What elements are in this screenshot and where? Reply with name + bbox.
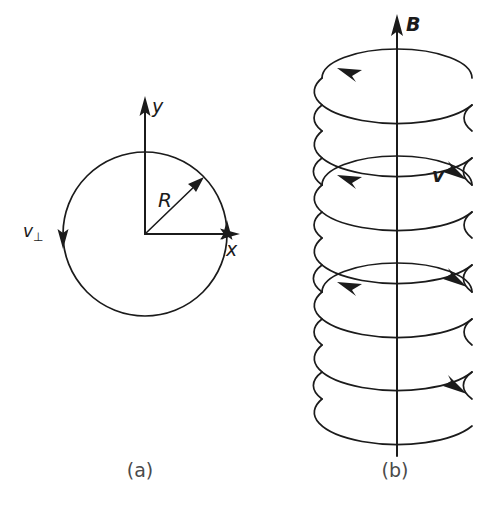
helix-left-connector-3 <box>314 212 322 238</box>
helix-left-connector-4 <box>313 265 322 292</box>
helix-arrowhead-left-1 <box>337 68 362 82</box>
helix-left-connector-2 <box>313 158 322 185</box>
velocity-perp-subscript: ⊥ <box>33 230 43 244</box>
helix-left-connector-5 <box>314 319 322 345</box>
panel-a-caption: (a) <box>127 459 153 481</box>
helix-arrowhead-left-3 <box>337 282 362 296</box>
panel-b-group: B <box>313 13 472 481</box>
helix-front-arc-0 <box>314 78 472 123</box>
panel-b-caption: (b) <box>382 459 409 481</box>
panel-a-group: y x R v ⊥ (a) <box>23 95 240 481</box>
magnetic-field-label: B <box>406 13 420 35</box>
velocity-label: v <box>432 164 445 186</box>
helix-left-arrowheads <box>337 68 362 296</box>
helix-arrowhead-left-2 <box>337 175 362 189</box>
velocity-perp-label-group: v ⊥ <box>23 221 43 244</box>
helix-front-arc-4 <box>314 292 472 337</box>
helix-left-connector-1 <box>314 105 322 131</box>
helix-front-arcs <box>314 78 472 444</box>
radius-label: R <box>158 188 172 212</box>
helix-front-arc-6 <box>314 399 472 444</box>
helix-left-connector-6 <box>313 372 322 399</box>
helix-front-arc-2 <box>314 185 472 230</box>
y-axis-label: y <box>151 95 164 117</box>
physics-figure: y x R v ⊥ (a) B <box>0 0 500 509</box>
helix-right-connectors <box>463 105 472 399</box>
